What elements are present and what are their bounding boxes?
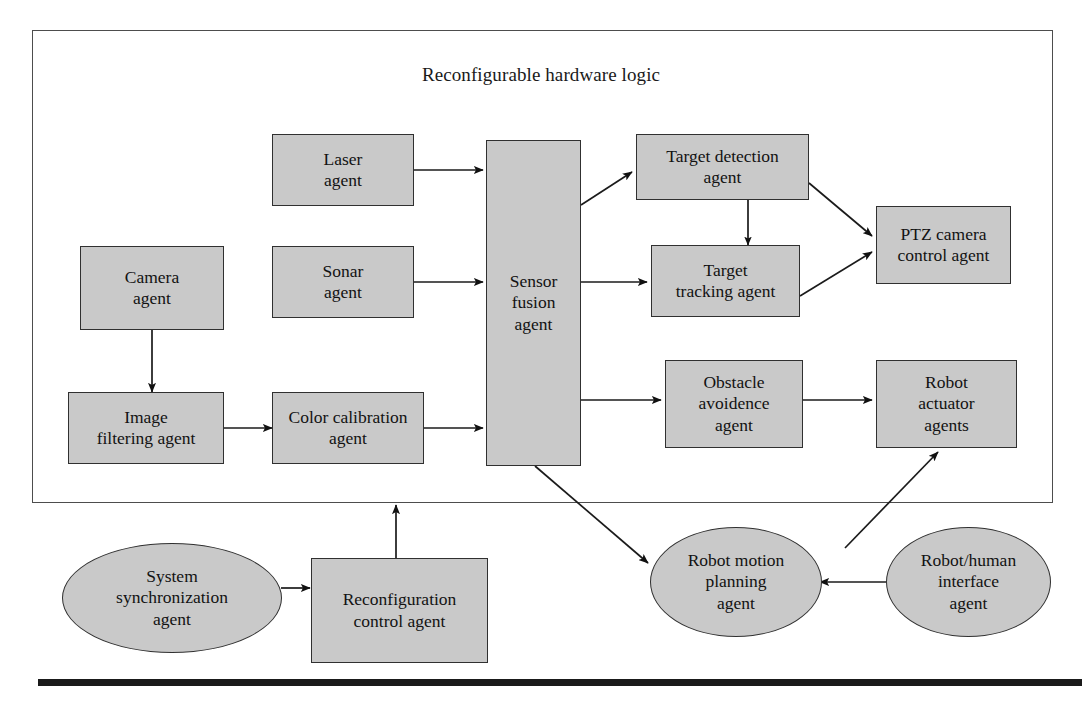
node-sensor-fusion-agent[interactable]: Sensorfusionagent [486,140,581,466]
node-target-tracking-agent-label: Targettracking agent [656,260,795,303]
diagram-canvas: Reconfigurable hardware logic [0,0,1082,703]
node-laser-agent-label: Laseragent [277,149,409,192]
node-robot-motion-planning-agent-label: Robot motionplanningagent [655,550,817,614]
node-robot-actuator-agents[interactable]: Robotactuatoragents [876,360,1017,448]
node-sonar-agent-label: Sonaragent [277,261,409,304]
node-system-synchronization-agent[interactable]: Systemsynchronizationagent [62,543,282,653]
node-ptz-camera-control-agent-label: PTZ cameracontrol agent [881,224,1006,267]
node-obstacle-avoidence-agent[interactable]: Obstacleavoidenceagent [665,360,803,448]
frame-title: Reconfigurable hardware logic [0,64,1082,86]
node-robot-motion-planning-agent[interactable]: Robot motionplanningagent [650,527,822,637]
node-sensor-fusion-agent-label: Sensorfusionagent [491,271,576,335]
node-image-filtering-agent-label: Imagefiltering agent [73,407,219,450]
node-target-detection-agent[interactable]: Target detectionagent [636,134,809,200]
node-color-calibration-agent-label: Color calibrationagent [277,407,419,450]
node-color-calibration-agent[interactable]: Color calibrationagent [272,392,424,464]
node-robot-human-interface-agent-label: Robot/humaninterfaceagent [891,550,1046,614]
node-sonar-agent[interactable]: Sonaragent [272,246,414,318]
node-image-filtering-agent[interactable]: Imagefiltering agent [68,392,224,464]
node-reconfiguration-control-agent[interactable]: Reconfigurationcontrol agent [311,558,488,663]
node-reconfiguration-control-agent-label: Reconfigurationcontrol agent [316,589,483,632]
node-obstacle-avoidence-agent-label: Obstacleavoidenceagent [670,372,798,436]
node-target-detection-agent-label: Target detectionagent [641,146,804,189]
node-system-synchronization-agent-label: Systemsynchronizationagent [67,566,277,630]
node-ptz-camera-control-agent[interactable]: PTZ cameracontrol agent [876,206,1011,284]
node-camera-agent-label: Cameraagent [85,267,219,310]
node-robot-actuator-agents-label: Robotactuatoragents [881,372,1012,436]
bottom-rule [38,679,1082,686]
node-target-tracking-agent[interactable]: Targettracking agent [651,245,800,317]
node-robot-human-interface-agent[interactable]: Robot/humaninterfaceagent [886,527,1051,637]
node-camera-agent[interactable]: Cameraagent [80,246,224,330]
node-laser-agent[interactable]: Laseragent [272,134,414,206]
